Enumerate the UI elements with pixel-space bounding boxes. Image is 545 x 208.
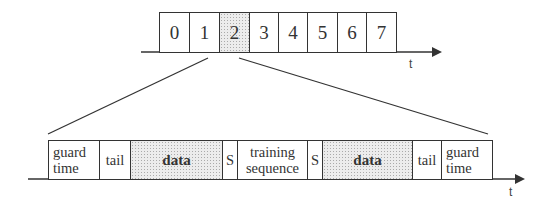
- slot-5: 5: [307, 12, 338, 53]
- field-tail-right: tail: [412, 140, 442, 180]
- field-guard-time-left: guard time: [48, 140, 100, 180]
- field-training-sequence: training sequence: [237, 140, 308, 180]
- slot-1: 1: [189, 12, 220, 53]
- field-stealing-flag-left: S: [222, 140, 238, 180]
- slot-7: 7: [366, 12, 397, 53]
- field-data-right: data: [322, 140, 413, 180]
- slot-4: 4: [278, 12, 308, 53]
- field-guard-time-right: guard time: [441, 140, 493, 180]
- time-axis-label-top: t: [409, 57, 412, 71]
- slot-3: 3: [249, 12, 279, 53]
- field-stealing-flag-right: S: [307, 140, 323, 180]
- field-tail-left: tail: [99, 140, 131, 180]
- slot-0: 0: [159, 12, 190, 53]
- slot-6: 6: [337, 12, 367, 53]
- time-axis-label-bottom: t: [509, 185, 512, 199]
- slot-2-selected: 2: [219, 12, 250, 53]
- field-data-left: data: [130, 140, 223, 180]
